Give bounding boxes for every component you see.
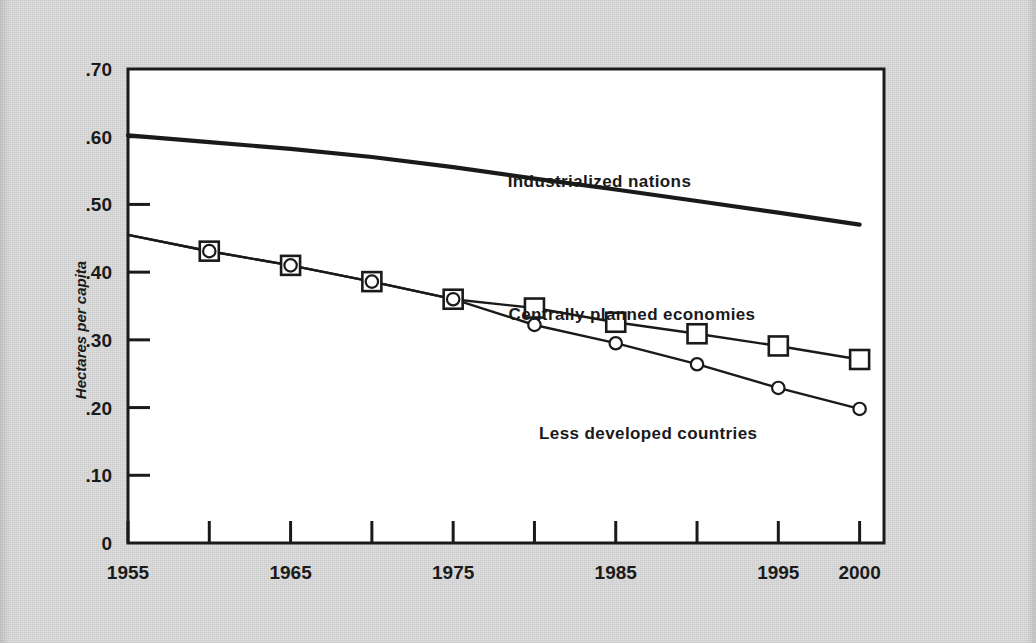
- marker-less-developed-countries-1985: [610, 337, 622, 349]
- y-tick-label-20: .20: [86, 398, 112, 419]
- marker-centrally-planned-economies-1990: [688, 324, 707, 343]
- x-axis-tick-labels: 195519651975198519952000: [107, 562, 881, 583]
- x-tick-label-1965: 1965: [269, 562, 312, 583]
- marker-less-developed-countries-1995: [772, 382, 784, 394]
- marker-centrally-planned-economies-1995: [769, 336, 788, 355]
- marker-less-developed-countries-1960: [203, 245, 215, 257]
- series-label-industrialized-nations: Industrialized nations: [508, 172, 692, 191]
- y-tick-label-30: .30: [86, 330, 112, 351]
- series-label-centrally-planned-economies: Centrally planned economies: [509, 305, 756, 324]
- marker-centrally-planned-economies-2000: [850, 350, 869, 369]
- marker-less-developed-countries-1970: [366, 275, 378, 287]
- y-tick-label-0: 0: [101, 533, 112, 554]
- y-tick-label-60: .60: [86, 127, 112, 148]
- y-tick-label-40: .40: [86, 262, 112, 283]
- x-tick-label-1995: 1995: [757, 562, 800, 583]
- series-label-less-developed-countries: Less developed countries: [539, 424, 757, 443]
- chart-figure: 0.10.20.30.40.50.60.70 19551965197519851…: [0, 0, 1036, 643]
- x-tick-label-2000: 2000: [838, 562, 880, 583]
- x-tick-label-1975: 1975: [432, 562, 475, 583]
- x-tick-label-1985: 1985: [595, 562, 638, 583]
- marker-less-developed-countries-2000: [853, 403, 865, 415]
- marker-less-developed-countries-1990: [691, 358, 703, 370]
- y-tick-label-10: .10: [86, 465, 112, 486]
- x-tick-label-1955: 1955: [107, 562, 150, 583]
- y-tick-label-50: .50: [86, 194, 112, 215]
- marker-less-developed-countries-1965: [284, 259, 296, 271]
- y-axis-title: Hectares per capita: [72, 261, 89, 399]
- y-tick-label-70: .70: [86, 59, 112, 80]
- marker-less-developed-countries-1975: [447, 293, 459, 305]
- y-axis-tick-labels: 0.10.20.30.40.50.60.70: [86, 59, 112, 554]
